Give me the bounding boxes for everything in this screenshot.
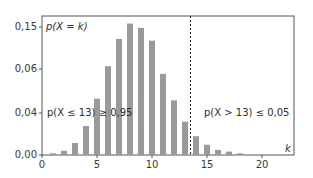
bar [50, 153, 56, 155]
left-region-annotation: p(X ≤ 13) ≥ 0,95 [47, 107, 132, 118]
plot-frame [42, 16, 294, 155]
y-axis-label: p(X = k) [46, 21, 88, 32]
x-tick-label: 15 [197, 160, 217, 170]
x-tick-label: 20 [252, 160, 272, 170]
bar [138, 28, 144, 155]
x-tick-label: 5 [87, 160, 107, 170]
bar [182, 122, 188, 155]
bar [171, 100, 177, 155]
x-tick-label: 10 [142, 160, 162, 170]
bar [237, 153, 243, 155]
bar [160, 74, 166, 155]
bar [204, 145, 210, 155]
x-axis-label: k [285, 143, 291, 154]
bar [127, 24, 133, 155]
y-tick-label: 0,06 [3, 64, 37, 74]
bar [215, 150, 221, 155]
bar [193, 136, 199, 155]
right-region-annotation: p(X > 13) ≤ 0,05 [204, 107, 289, 118]
bar [83, 126, 89, 155]
bar [61, 151, 67, 155]
bar [116, 39, 122, 155]
y-tick-label: 0,00 [3, 150, 37, 160]
binomial-distribution-chart: 0,15 0,06 0,04 0,00 0 5 10 15 20 p(X = k… [0, 0, 313, 178]
bar [149, 41, 155, 155]
y-tick-label: 0,15 [3, 22, 37, 32]
x-tick-label: 0 [32, 160, 52, 170]
bar [72, 143, 78, 155]
bar [226, 152, 232, 155]
y-tick-label: 0,04 [3, 108, 37, 118]
